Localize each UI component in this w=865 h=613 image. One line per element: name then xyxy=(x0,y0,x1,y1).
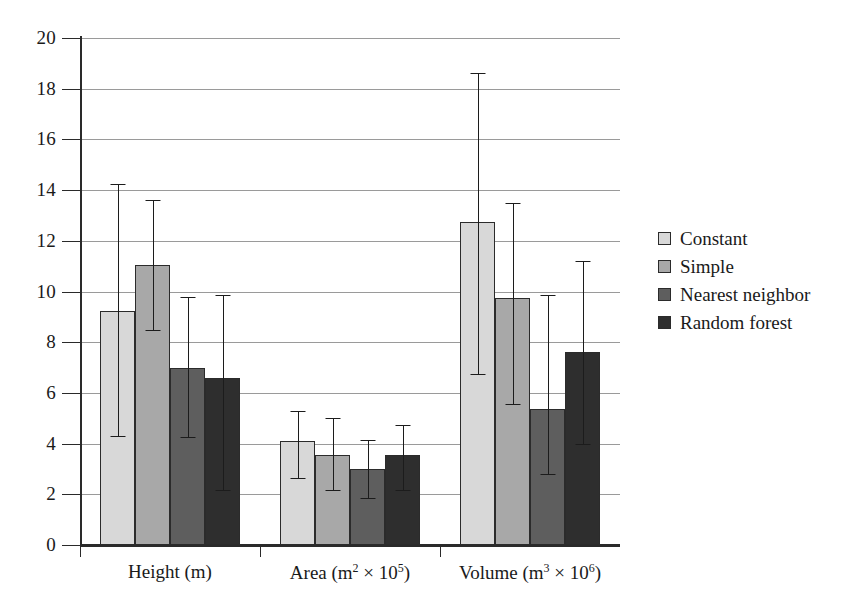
x-axis-label-1: Area (m2 × 105) xyxy=(290,561,410,584)
y-tick-label-12: 12 xyxy=(36,230,56,252)
error-bar-cap-lower xyxy=(325,490,340,491)
error-bar-cap-lower xyxy=(180,437,195,438)
error-bar-cap-upper xyxy=(470,73,485,74)
y-tick-8 xyxy=(62,342,80,343)
chart-figure: 02468101214161820 Height (m)Area (m2 × 1… xyxy=(0,0,865,613)
legend: ConstantSimpleNearest neighborRandom for… xyxy=(658,224,810,336)
legend-label: Nearest neighbor xyxy=(680,285,810,304)
error-bar-cap-upper xyxy=(110,184,125,185)
error-bar-line xyxy=(153,200,154,329)
y-tick-label-8: 8 xyxy=(46,331,56,353)
error-bar-cap-upper xyxy=(180,297,195,298)
legend-item: Random forest xyxy=(658,308,810,336)
error-bar-line xyxy=(403,425,404,491)
y-tick-14 xyxy=(62,190,80,191)
error-bar-line xyxy=(548,295,549,474)
y-tick-label-6: 6 xyxy=(46,382,56,404)
error-bar-line xyxy=(583,261,584,444)
y-tick-label-14: 14 xyxy=(36,179,56,201)
legend-item: Nearest neighbor xyxy=(658,280,810,308)
error-bar-cap-lower xyxy=(215,490,230,491)
error-bar-cap-lower xyxy=(505,404,520,405)
y-tick-10 xyxy=(62,292,80,293)
legend-item: Constant xyxy=(658,224,810,252)
y-tick-6 xyxy=(62,393,80,394)
y-tick-label-4: 4 xyxy=(46,433,56,455)
error-bar-line xyxy=(223,295,224,490)
error-bar-line xyxy=(298,411,299,478)
plot-area xyxy=(80,38,620,545)
legend-swatch-icon xyxy=(658,316,671,329)
y-tick-label-0: 0 xyxy=(46,534,56,556)
y-tick-18 xyxy=(62,89,80,90)
y-tick-label-18: 18 xyxy=(36,78,56,100)
error-bar-cap-lower xyxy=(395,490,410,491)
y-tick-label-16: 16 xyxy=(36,128,56,150)
y-tick-4 xyxy=(62,444,80,445)
legend-swatch-icon xyxy=(658,260,671,273)
error-bar-cap-lower xyxy=(575,444,590,445)
y-tick-label-10: 10 xyxy=(36,281,56,303)
y-tick-0 xyxy=(62,545,80,546)
error-bar-line xyxy=(368,440,369,498)
error-bar-line xyxy=(333,418,334,490)
error-bar-cap-lower xyxy=(290,478,305,479)
y-tick-2 xyxy=(62,494,80,495)
error-bar-line xyxy=(118,184,119,436)
y-tick-16 xyxy=(62,139,80,140)
legend-swatch-icon xyxy=(658,232,671,245)
y-tick-label-2: 2 xyxy=(46,483,56,505)
error-bar-cap-lower xyxy=(110,436,125,437)
error-bar-line xyxy=(478,73,479,373)
y-axis-tick-labels: 02468101214161820 xyxy=(0,0,56,613)
x-tick-2 xyxy=(440,546,441,557)
legend-item: Simple xyxy=(658,252,810,280)
error-bar-cap-lower xyxy=(470,374,485,375)
x-tick-1 xyxy=(260,546,261,557)
x-tick-0 xyxy=(80,546,81,557)
error-bar-cap-lower xyxy=(145,330,160,331)
error-bar-cap-upper xyxy=(360,440,375,441)
y-tick-label-20: 20 xyxy=(36,27,56,49)
error-bar-cap-upper xyxy=(505,203,520,204)
y-tick-12 xyxy=(62,241,80,242)
error-bar-line xyxy=(188,297,189,438)
error-bar-cap-upper xyxy=(575,261,590,262)
y-tick-20 xyxy=(62,38,80,39)
error-bar-cap-lower xyxy=(360,498,375,499)
error-bar-cap-upper xyxy=(540,295,555,296)
x-axis-label-2: Volume (m3 × 106) xyxy=(459,561,601,584)
error-bar-cap-upper xyxy=(215,295,230,296)
x-axis-label-0: Height (m) xyxy=(128,561,212,583)
legend-swatch-icon xyxy=(658,288,671,301)
error-bar-cap-upper xyxy=(325,418,340,419)
error-bar-line xyxy=(513,203,514,405)
legend-label: Simple xyxy=(680,257,734,276)
error-bar-cap-upper xyxy=(290,411,305,412)
legend-label: Random forest xyxy=(680,313,792,332)
error-bar-cap-upper xyxy=(145,200,160,201)
error-bar-cap-upper xyxy=(395,425,410,426)
error-bar-cap-lower xyxy=(540,474,555,475)
legend-label: Constant xyxy=(680,229,748,248)
